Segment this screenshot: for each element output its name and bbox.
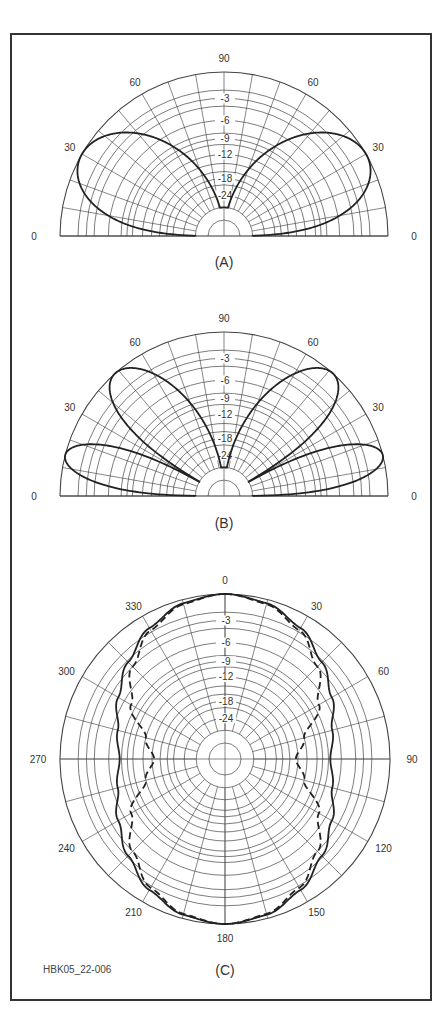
angle-label: 240: [58, 843, 75, 854]
polar-chart-c: -3-6-9-12-18-240306090120150180210240270…: [30, 575, 418, 944]
grid-spoke: [108, 642, 204, 738]
ring-label: -18: [218, 433, 233, 444]
angle-label: 30: [64, 402, 76, 413]
angle-label: 150: [308, 907, 325, 918]
grid-spoke: [108, 779, 204, 875]
grid-spoke: [253, 716, 385, 751]
caption-a: (A): [215, 254, 234, 270]
angle-label: 0: [222, 575, 228, 586]
figure-id: HBK05_22-006: [43, 964, 112, 975]
polar-chart-b: -3-6-9-12-18-24906060303000: [31, 313, 417, 502]
angle-label: 180: [217, 933, 234, 944]
polar-patterns-figure: -3-6-9-12-18-24906060303000 -3-6-9-12-18…: [0, 0, 445, 1021]
angle-label: 60: [307, 337, 319, 348]
grid-spoke: [66, 766, 198, 801]
angle-label: 0: [31, 491, 37, 502]
polar-chart-a: -3-6-9-12-18-24906060303000: [31, 53, 417, 242]
angle-label: 30: [311, 601, 323, 612]
caption-c: (C): [215, 962, 234, 978]
angle-label: 60: [307, 77, 319, 88]
ring-label: -6: [222, 637, 231, 648]
angle-label: 330: [125, 601, 142, 612]
ring-label: -3: [222, 615, 231, 626]
ring-label: -6: [221, 115, 230, 126]
angle-label: 120: [375, 843, 392, 854]
angle-label: 300: [58, 666, 75, 677]
grid-spoke: [249, 154, 366, 222]
ring-label: -9: [221, 133, 230, 144]
angle-label: 30: [373, 142, 385, 153]
angle-label: 30: [64, 142, 76, 153]
angle-label: 60: [378, 666, 390, 677]
ring-label: -12: [219, 671, 234, 682]
angle-label: 90: [406, 754, 418, 765]
angle-label: 0: [31, 231, 37, 242]
grid-spoke: [232, 600, 267, 732]
grid-spoke: [253, 766, 385, 801]
ring-label: -6: [221, 375, 230, 386]
ring-label: -9: [221, 393, 230, 404]
angle-label: 90: [218, 313, 230, 324]
grid-spoke: [182, 600, 217, 732]
angle-label: 0: [411, 231, 417, 242]
ring-label: -9: [222, 656, 231, 667]
angle-label: 60: [129, 77, 141, 88]
grid-spoke: [182, 787, 217, 919]
ring-label: -12: [218, 149, 233, 160]
grid-spoke: [239, 784, 307, 902]
caption-b: (B): [215, 515, 234, 531]
angle-label: 60: [129, 337, 141, 348]
angle-label: 30: [373, 402, 385, 413]
grid-spoke: [250, 677, 368, 745]
grid-spoke: [142, 354, 210, 471]
grid-spoke: [238, 94, 306, 211]
grid-spoke: [242, 370, 329, 474]
ring-label: -18: [219, 696, 234, 707]
ring-label: -3: [221, 353, 230, 364]
grid-spoke: [245, 779, 341, 875]
ring-label: -24: [219, 713, 234, 724]
grid-spoke: [232, 787, 267, 919]
grid-spoke: [239, 616, 307, 734]
ring-label: -12: [218, 409, 233, 420]
grid-spoke: [82, 154, 199, 222]
ring-label: -3: [221, 93, 230, 104]
angle-label: 270: [30, 754, 47, 765]
grid-spoke: [119, 370, 206, 474]
ring-label: -18: [218, 173, 233, 184]
grid-spoke: [238, 354, 306, 471]
grid-spoke: [143, 784, 211, 902]
grid-spoke: [250, 773, 368, 841]
grid-spoke: [245, 642, 341, 738]
grid-spoke: [82, 677, 200, 745]
grid-spoke: [143, 616, 211, 734]
grid-spoke: [66, 716, 198, 751]
angle-label: 210: [125, 907, 142, 918]
grid-spoke: [142, 94, 210, 211]
grid-spoke: [82, 773, 200, 841]
angle-label: 0: [411, 491, 417, 502]
angle-label: 90: [218, 53, 230, 64]
